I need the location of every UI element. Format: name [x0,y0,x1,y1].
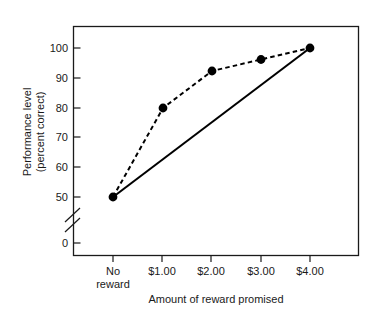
y-tick-label-100: 100 [50,42,68,54]
y-axis-title-line2: (percent correct) [34,92,46,173]
data-point-2-00 [208,67,217,76]
y-tick-label-90: 90 [56,72,68,84]
y-tick-label-70: 70 [56,131,68,143]
y-tick-label-50: 50 [56,191,68,203]
x-tick-label-1-00: $1.00 [148,265,176,277]
y-axis-title-line1: Performance level [21,88,33,177]
data-point-no-reward [109,193,118,202]
x-tick-label-3-00: $3.00 [247,265,275,277]
data-point-1-00 [159,104,168,113]
y-tick-label-80: 80 [56,102,68,114]
y-tick-label-60: 60 [56,161,68,173]
data-point-4-00 [306,44,315,53]
x-axis-ticks [113,256,310,263]
x-tick-label-2-00: $2.00 [197,265,225,277]
y-axis-break-icon [65,208,80,232]
x-axis-tick-labels: No reward $1.00 $2.00 $3.00 $4.00 [96,265,324,290]
data-point-3-00 [257,55,266,64]
plot-frame [74,27,359,256]
y-axis-title: Performance level (percent correct) [21,88,46,177]
chart-figure: 100 90 80 70 60 50 0 Performance level (… [0,0,375,311]
performance-reward-line-chart: 100 90 80 70 60 50 0 Performance level (… [0,0,375,311]
x-tick-label-no-reward-line2: reward [96,278,130,290]
y-tick-label-0: 0 [62,237,68,249]
x-tick-label-4-00: $4.00 [296,265,324,277]
x-axis-title: Amount of reward promised [148,293,283,305]
x-tick-label-no-reward-line1: No [106,265,120,277]
y-axis-tick-labels: 100 90 80 70 60 50 0 [50,42,68,249]
